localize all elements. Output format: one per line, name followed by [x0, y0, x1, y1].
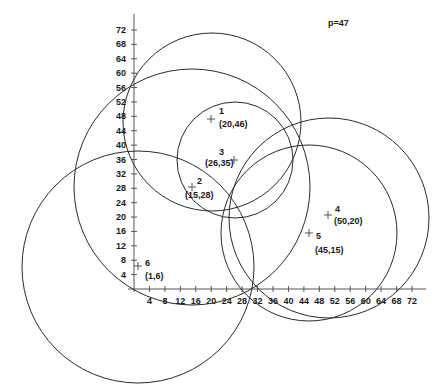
point-3-id: 3: [219, 147, 224, 157]
x-tick-label: 68: [392, 296, 402, 306]
point-5-id: 5: [316, 231, 321, 241]
y-tick-label: 64: [116, 54, 126, 64]
point-1-marker: [207, 115, 215, 123]
x-tick-label: 56: [345, 296, 355, 306]
point-2-coord: (15,28): [185, 190, 214, 200]
x-tick-label: 72: [407, 296, 417, 306]
x-tick-label: 48: [314, 296, 324, 306]
y-tick-label: 44: [116, 126, 126, 136]
y-tick-label: 20: [116, 212, 126, 222]
point-2-id: 2: [197, 176, 202, 186]
y-tick-label: 24: [116, 198, 126, 208]
x-tick-label: 20: [206, 296, 216, 306]
y-tick-label: 40: [116, 140, 126, 150]
x-tick-label: 52: [330, 296, 340, 306]
point-1-coord: (20,46): [219, 119, 248, 129]
diagram-canvas: 4812162024283236404448525660646872 48121…: [0, 0, 440, 392]
p-annotation: p=47: [328, 18, 349, 28]
y-tick-label: 36: [116, 155, 126, 165]
point-1-id: 1: [219, 106, 224, 116]
x-tick-label: 40: [283, 296, 293, 306]
point-4-id: 4: [335, 204, 340, 214]
y-tick-label: 32: [116, 169, 126, 179]
y-tick-label: 8: [121, 255, 126, 265]
y-tick-label: 48: [116, 111, 126, 121]
x-tick-label: 44: [299, 296, 309, 306]
point-6-marker: [134, 262, 142, 270]
point-4-marker: [324, 211, 332, 219]
point-3-coord: (26,35): [205, 158, 234, 168]
point-6-coord: (1,6): [145, 271, 164, 281]
x-tick-label: 28: [237, 296, 247, 306]
y-tick-label: 4: [121, 270, 126, 280]
y-tick-label: 60: [116, 68, 126, 78]
circle-4: [229, 118, 429, 318]
circle-1: [123, 33, 301, 211]
y-tick-label: 68: [116, 39, 126, 49]
y-tick-label: 72: [116, 25, 126, 35]
point-6-id: 6: [145, 258, 150, 268]
y-tick-label: 12: [116, 241, 126, 251]
y-tick-label: 56: [116, 83, 126, 93]
point-4-coord: (50,20): [334, 216, 363, 226]
point-5-marker: [305, 229, 313, 237]
circles: [22, 33, 429, 383]
y-tick-label: 28: [116, 183, 126, 193]
y-tick-label: 16: [116, 226, 126, 236]
point-5-coord: (45,15): [315, 245, 344, 255]
